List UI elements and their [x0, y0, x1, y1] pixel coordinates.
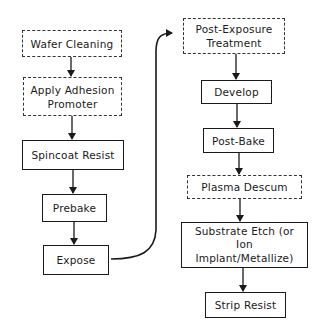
step-substrate-etch: Substrate Etch (or Ion Implant/Metallize…: [181, 222, 308, 268]
step-strip-resist: Strip Resist: [205, 292, 286, 318]
step-plasma-descum: Plasma Descum: [187, 175, 302, 199]
step-post-exposure-treatment: Post-Exposure Treatment: [183, 18, 285, 54]
step-post-bake: Post-Bake: [203, 128, 274, 153]
step-wafer-cleaning: Wafer Cleaning: [22, 30, 122, 57]
step-spincoat-resist: Spincoat Resist: [22, 140, 124, 170]
step-prebake: Prebake: [42, 194, 107, 222]
step-apply-adhesion-promoter: Apply Adhesion Promoter: [23, 77, 122, 116]
step-expose: Expose: [43, 245, 109, 275]
step-develop: Develop: [201, 80, 272, 104]
